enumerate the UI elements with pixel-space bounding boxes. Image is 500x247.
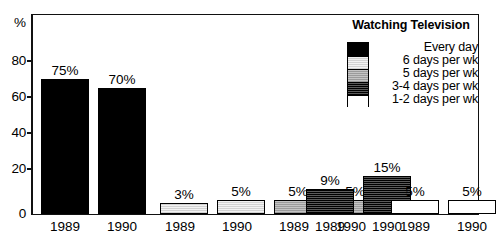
y-tick-label-20: 20 [0,162,26,176]
y-tick-label-60: 60 [0,90,26,104]
y-tick-label-0: 0 [0,207,26,221]
x-tick-label-7: 1989 [302,219,358,234]
legend-swatch-every-day [348,43,368,56]
legend-swatch-6-days [348,56,368,69]
x-tick-label-2: 1990 [94,219,150,234]
bar-value-label: 5% [462,185,482,199]
legend-swatch-stack [347,42,369,107]
bar-1-2-days-1990 [448,200,496,214]
x-axis-labels: 1989 1990 1989 1990 1989 1990 1989 1990 … [31,219,479,241]
legend-swatch-1-2-days [348,95,368,108]
x-tick-label-10: 1990 [444,219,500,234]
y-tick-label-40: 40 [0,126,26,140]
legend-swatch-5-days [348,69,368,82]
bar-value-label: 9% [320,174,340,188]
legend-labels: Every day 6 days per wk 5 days per wk 3-… [370,41,478,106]
x-tick-label-9: 1989 [387,219,443,234]
legend-swatch-3-4-days [348,82,368,95]
legend-title: Watching Television [342,18,480,32]
bar-3-4-days-1989 [306,189,354,214]
x-tick-label-4: 1990 [209,219,265,234]
bar-value-label: 5% [405,185,425,199]
legend-label-1-2-days: 1-2 days per wk [370,93,478,106]
x-tick-label-1: 1989 [37,219,93,234]
y-tick-label-80: 80 [0,54,26,68]
bar-1-2-days-1989 [391,200,439,214]
legend: Watching Television Every day 6 days per… [340,14,480,110]
x-tick-label-3: 1989 [152,219,208,234]
y-axis-unit-label: % [0,16,26,30]
